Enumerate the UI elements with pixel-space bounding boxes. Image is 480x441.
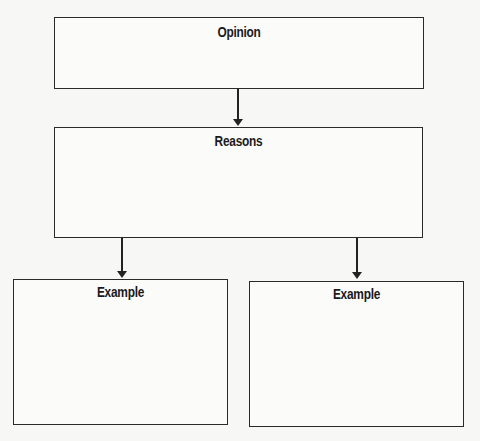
arrow-reasons-to-example-left — [121, 238, 123, 272]
arrowhead-icon — [233, 119, 243, 126]
example-right-label: Example — [266, 286, 447, 302]
example-right-box: Example — [249, 281, 464, 427]
opinion-box: Opinion — [54, 17, 424, 89]
example-left-box: Example — [13, 279, 228, 425]
reasons-box: Reasons — [54, 127, 423, 238]
arrow-opinion-to-reasons — [237, 89, 239, 121]
arrow-reasons-to-example-right — [356, 238, 358, 273]
arrowhead-icon — [352, 272, 362, 279]
reasons-label: Reasons — [83, 133, 395, 149]
arrowhead-icon — [117, 271, 127, 278]
example-left-label: Example — [30, 284, 211, 300]
opinion-label: Opinion — [83, 24, 396, 40]
